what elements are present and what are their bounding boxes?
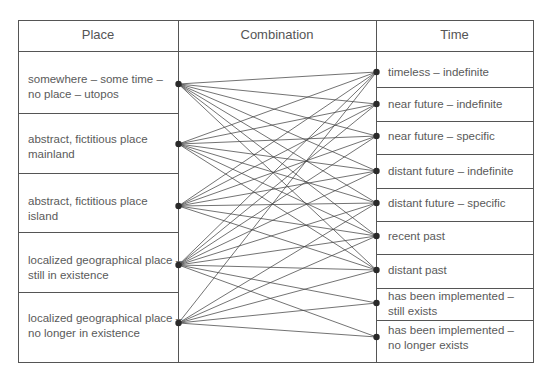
time-item-line2: no longer exists — [388, 338, 514, 353]
place-item: abstract, fictitious placeisland — [28, 194, 148, 223]
time-item: recent past — [388, 229, 445, 244]
connection-line — [179, 84, 377, 270]
time-item-line1: has been implemented – — [388, 289, 514, 304]
time-item: distant future – indefinite — [388, 164, 513, 179]
time-item: near future – indefinite — [388, 97, 502, 112]
connection-line — [179, 203, 377, 265]
time-node — [373, 334, 379, 340]
connection-line — [179, 265, 377, 337]
place-node — [175, 141, 181, 147]
time-item-line1: near future – indefinite — [388, 97, 502, 112]
time-item: has been implemented –no longer exists — [388, 323, 514, 352]
place-item: somewhere – some time –no place – utopos — [28, 72, 163, 101]
place-item: localized geographical place –no longer … — [28, 311, 182, 340]
connection-line — [179, 72, 377, 265]
connection-line — [179, 72, 377, 144]
connection-line — [179, 136, 377, 144]
time-node — [373, 168, 379, 174]
time-item: timeless – indefinite — [388, 65, 489, 80]
time-item: has been implemented –still exists — [388, 289, 514, 318]
header-combination: Combination — [178, 27, 376, 42]
place-item-line1: somewhere – some time – — [28, 72, 163, 87]
place-item: localized geographical place –still in e… — [28, 253, 182, 282]
header-place: Place — [18, 27, 178, 42]
time-item: near future – specific — [388, 129, 495, 144]
connection-lines — [179, 72, 377, 337]
connection-line — [179, 270, 377, 323]
connection-line — [179, 265, 377, 303]
time-node — [373, 300, 379, 306]
place-node — [175, 81, 181, 87]
connection-line — [179, 136, 377, 206]
time-node — [373, 69, 379, 75]
connection-line — [179, 303, 377, 323]
time-item: distant future – specific — [388, 196, 506, 211]
place-item-line1: abstract, fictitious place — [28, 132, 148, 147]
time-item-line1: recent past — [388, 229, 445, 244]
time-item-line1: distant future – indefinite — [388, 164, 513, 179]
connection-line — [179, 236, 377, 323]
place-item-line2: mainland — [28, 147, 148, 162]
time-item-line1: distant past — [388, 263, 447, 278]
place-node — [175, 203, 181, 209]
connection-line — [179, 323, 377, 337]
time-item-line1: has been implemented – — [388, 323, 514, 338]
connection-line — [179, 265, 377, 270]
place-item-line2: no longer in existence — [28, 326, 182, 341]
place-item-line2: island — [28, 209, 148, 224]
place-item-line1: localized geographical place – — [28, 253, 182, 268]
time-item-line1: distant future – specific — [388, 196, 506, 211]
connection-line — [179, 144, 377, 203]
connection-line — [179, 104, 377, 265]
time-node — [373, 101, 379, 107]
place-item-line1: localized geographical place – — [28, 311, 182, 326]
time-item: distant past — [388, 263, 447, 278]
place-item-line2: no place – utopos — [28, 87, 163, 102]
time-node — [373, 267, 379, 273]
connection-line — [179, 84, 377, 236]
time-node — [373, 133, 379, 139]
time-item-line1: timeless – indefinite — [388, 65, 489, 80]
time-node — [373, 233, 379, 239]
place-item-line2: still in existence — [28, 268, 182, 283]
place-item: abstract, fictitious placemainland — [28, 132, 148, 161]
header-time: Time — [376, 27, 533, 42]
connection-line — [179, 72, 377, 84]
time-item-line1: near future – specific — [388, 129, 495, 144]
place-item-line1: abstract, fictitious place — [28, 194, 148, 209]
time-node — [373, 200, 379, 206]
connection-line — [179, 203, 377, 206]
time-item-line2: still exists — [388, 304, 514, 319]
